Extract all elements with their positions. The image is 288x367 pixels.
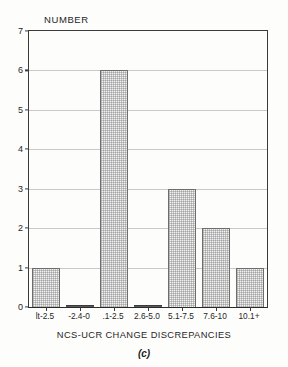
y-axis-tick-label: 5 <box>18 105 23 114</box>
y-axis-tick-label: 0 <box>18 303 23 312</box>
bar-chart-figure: NUMBER 01234567 lt-2.5-2.4-0.1-2.52.6-5.… <box>0 0 288 367</box>
x-axis-tick-label: .1-2.5 <box>102 312 123 320</box>
bar <box>236 268 263 307</box>
y-axis-tick-label: 6 <box>18 66 23 75</box>
bar <box>202 228 229 307</box>
x-axis-tick-labels: lt-2.5-2.4-0.1-2.52.6-5.05.1-7.57.6-1010… <box>28 312 268 324</box>
bar <box>100 70 127 307</box>
x-axis-tick-label: 2.6-5.0 <box>134 312 160 320</box>
x-axis-tick-label: 7.6-10 <box>203 312 227 320</box>
y-axis-tick-label: 1 <box>18 263 23 272</box>
bar <box>32 268 59 307</box>
y-axis-tick-label: 4 <box>18 145 23 154</box>
bar <box>168 189 195 307</box>
y-axis-tick-label: 2 <box>18 224 23 233</box>
x-axis-title: NCS-UCR CHANGE DISCREPANCIES <box>0 330 288 340</box>
y-axis-tick-label: 3 <box>18 184 23 193</box>
x-axis-tick-label: lt-2.5 <box>36 312 54 320</box>
panel-caption: (c) <box>0 348 288 359</box>
x-axis-tick-label: 5.1-7.5 <box>168 312 194 320</box>
y-axis-tick-label: 7 <box>18 27 23 36</box>
x-axis-tick-label: -2.4-0 <box>68 312 90 320</box>
x-axis-tick-label: 10.1+ <box>239 312 260 320</box>
plot-area: 01234567 <box>28 30 268 308</box>
bars-group <box>29 31 267 307</box>
y-axis-title: NUMBER <box>44 14 89 25</box>
